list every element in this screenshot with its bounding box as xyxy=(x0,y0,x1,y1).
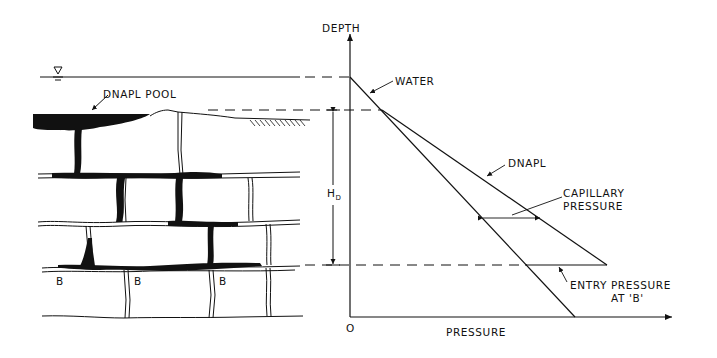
fracture-label-b1: B xyxy=(56,275,64,287)
depth-axis-label: DEPTH xyxy=(322,22,360,34)
water-curve-label: WATER xyxy=(395,75,435,87)
hd-label: HD xyxy=(327,187,342,204)
diagram-canvas xyxy=(0,0,717,358)
capillary-label-2: PRESSURE xyxy=(563,200,623,212)
dashed-guides xyxy=(208,77,527,265)
entry-label-1: ENTRY PRESSURE xyxy=(570,279,671,291)
dnapl-curve-label: DNAPL xyxy=(508,157,546,169)
fracture-label-b2: B xyxy=(134,275,142,287)
entry-label-2: AT 'B' xyxy=(611,292,644,304)
water-leader xyxy=(370,81,393,93)
ground-hatch xyxy=(250,120,305,126)
fracture-label-b3: B xyxy=(219,275,227,287)
capillary-label-1: CAPILLARY xyxy=(563,187,625,199)
pressure-axis-label: PRESSURE xyxy=(446,326,506,338)
dnapl-pool-label: DNAPL POOL xyxy=(103,88,176,100)
dnapl-leader xyxy=(487,165,505,176)
origin-label: O xyxy=(346,322,355,334)
capillary-leader xyxy=(512,197,562,215)
entry-leader xyxy=(559,267,567,282)
rock-top-surface xyxy=(150,110,310,120)
hd-main: H xyxy=(327,187,336,199)
fractured-rock-section xyxy=(38,67,310,318)
hd-subscript: D xyxy=(336,194,342,202)
water-pressure-line xyxy=(350,77,575,317)
dnapl-fill xyxy=(33,114,262,271)
water-table-symbol-icon xyxy=(53,67,63,80)
